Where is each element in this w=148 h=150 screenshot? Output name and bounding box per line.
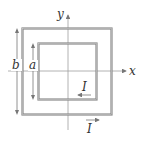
outer-current-label: I (86, 122, 92, 136)
outer-side-label: b (12, 58, 20, 72)
inner-loop (39, 44, 97, 100)
x-axis-label: x (129, 64, 136, 78)
inner-side-label: a (29, 58, 36, 72)
loops-diagram: x y b a I I (0, 0, 148, 150)
y-axis-label: y (56, 7, 64, 21)
inner-current-label: I (81, 80, 87, 94)
